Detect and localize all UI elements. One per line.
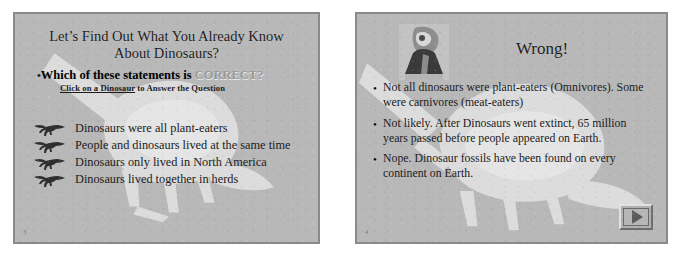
answer-option-2[interactable]: People and dinosaurs lived at the same t… <box>33 137 318 154</box>
slide-number-left: 3 <box>23 228 27 236</box>
answer-option-1[interactable]: Dinosaurs were all plant-eaters <box>33 120 318 137</box>
answer-option-3[interactable]: Dinosaurs only lived in North America <box>33 154 318 171</box>
dinosaur-head-image <box>399 24 449 80</box>
answer-label: People and dinosaurs lived at the same t… <box>75 139 290 151</box>
question-bullet: •Which of these statements is CORRECT? <box>37 68 308 84</box>
question-emphasis: CORRECT? <box>195 68 264 82</box>
answer-option-4[interactable]: Dinosaurs lived together in herds <box>33 171 318 188</box>
next-button-inner <box>623 208 649 226</box>
play-triangle-icon <box>632 210 643 224</box>
title-line-1: Let’s Find Out What You Already Know <box>27 28 306 45</box>
subtitle-rest: to Answer the Question <box>135 83 225 93</box>
explanation-item-3: • Nope. Dinosaur fossils have been found… <box>373 151 652 181</box>
answer-label: Dinosaurs lived together in herds <box>75 173 238 185</box>
question-text: Which of these statements is CORRECT? <box>41 68 264 82</box>
explanation-list: • Not all dinosaurs were plant-eaters (O… <box>373 80 652 187</box>
question-prefix: Which of these statements is <box>41 68 195 82</box>
click-dinosaur-link[interactable]: Click on a Dinosaur <box>60 83 135 93</box>
explanation-item-1: • Not all dinosaurs were plant-eaters (O… <box>373 80 652 110</box>
slide-right-content: Wrong! • Not all dinosaurs were plant-ea… <box>357 14 666 242</box>
explanation-text: Nope. Dinosaur fossils have been found o… <box>383 151 652 181</box>
answer-label: Dinosaurs only lived in North America <box>75 156 267 168</box>
title-line-2: About Dinosaurs? <box>27 45 306 62</box>
explanation-item-2: • Not likely. After Dinosaurs went extin… <box>373 116 652 146</box>
answer-list: Dinosaurs were all plant-eaters People a… <box>33 120 318 188</box>
dinosaur-icon[interactable] <box>33 121 67 137</box>
page-title-left: Let’s Find Out What You Already Know Abo… <box>27 28 306 62</box>
slide-pair-page: Let’s Find Out What You Already Know Abo… <box>0 0 683 267</box>
slide-left-content: Let’s Find Out What You Already Know Abo… <box>15 14 318 242</box>
slide-number-right: 4 <box>365 228 369 236</box>
answer-label: Dinosaurs were all plant-eaters <box>75 122 228 134</box>
bullet-glyph: • <box>373 116 383 131</box>
bullet-glyph: • <box>373 151 383 166</box>
slide-right[interactable]: Wrong! • Not all dinosaurs were plant-ea… <box>355 12 668 244</box>
bullet-glyph: • <box>373 80 383 95</box>
page-title-right: Wrong! <box>467 39 617 59</box>
explanation-text: Not likely. After Dinosaurs went extinct… <box>383 116 652 146</box>
subtitle-instruction: Click on a Dinosaur to Answer the Questi… <box>60 83 225 93</box>
slide-left[interactable]: Let’s Find Out What You Already Know Abo… <box>13 12 320 244</box>
dinosaur-icon[interactable] <box>33 155 67 171</box>
next-slide-button[interactable] <box>619 204 653 230</box>
explanation-text: Not all dinosaurs were plant-eaters (Omn… <box>383 80 652 110</box>
dinosaur-icon[interactable] <box>33 138 67 154</box>
dinosaur-icon[interactable] <box>33 172 67 188</box>
